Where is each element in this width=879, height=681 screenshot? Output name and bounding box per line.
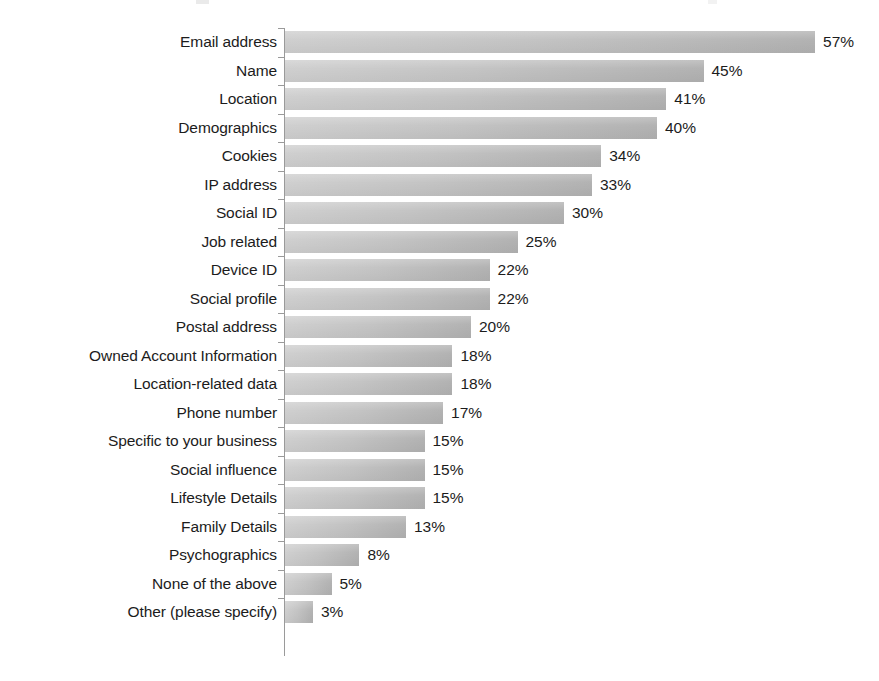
bar-group: 8%	[285, 544, 390, 566]
bar-value-label: 13%	[414, 516, 445, 538]
bar-group: 3%	[285, 601, 343, 623]
category-label: None of the above	[0, 570, 277, 599]
axis-tick	[278, 399, 284, 400]
category-label: Other (please specify)	[0, 598, 277, 627]
bar	[285, 202, 564, 224]
category-label: Cookies	[0, 142, 277, 171]
bar-value-label: 15%	[433, 430, 464, 452]
axis-tick	[278, 370, 284, 371]
axis-tick	[278, 28, 284, 29]
bar-group: 17%	[285, 402, 482, 424]
category-label: Lifestyle Details	[0, 484, 277, 513]
plot-area: Email address57%Name45%Location41%Demogr…	[0, 28, 879, 658]
bar-value-label: 22%	[498, 288, 529, 310]
bar-value-label: 57%	[823, 31, 854, 53]
axis-tick	[278, 313, 284, 314]
bar	[285, 259, 490, 281]
axis-tick	[278, 199, 284, 200]
bar-value-label: 15%	[433, 487, 464, 509]
axis-tick	[278, 484, 284, 485]
bar-value-label: 18%	[460, 373, 491, 395]
axis-tick	[278, 256, 284, 257]
bar-value-label: 3%	[321, 601, 343, 623]
category-label: Owned Account Information	[0, 342, 277, 371]
bar	[285, 174, 592, 196]
bar	[285, 316, 471, 338]
axis-tick	[278, 570, 284, 571]
bar	[285, 402, 443, 424]
bar	[285, 288, 490, 310]
bar	[285, 88, 666, 110]
bar-value-label: 33%	[600, 174, 631, 196]
bar-chart: Email address57%Name45%Location41%Demogr…	[0, 0, 879, 681]
axis-tick	[278, 57, 284, 58]
bar-row: Cookies34%	[0, 142, 879, 171]
category-label: Demographics	[0, 114, 277, 143]
bar-group: 41%	[285, 88, 705, 110]
bar-row: None of the above5%	[0, 570, 879, 599]
bar	[285, 145, 601, 167]
axis-tick	[278, 228, 284, 229]
bar-group: 5%	[285, 573, 362, 595]
bar-group: 15%	[285, 430, 464, 452]
bar-value-label: 20%	[479, 316, 510, 338]
bar	[285, 459, 425, 481]
bar-value-label: 34%	[609, 145, 640, 167]
bar-row: Demographics40%	[0, 114, 879, 143]
bar	[285, 601, 313, 623]
bar-group: 20%	[285, 316, 510, 338]
bar-group: 15%	[285, 459, 464, 481]
bar-row: Family Details13%	[0, 513, 879, 542]
bar-row: Location41%	[0, 85, 879, 114]
bar-row: Postal address20%	[0, 313, 879, 342]
bar-value-label: 22%	[498, 259, 529, 281]
axis-tick	[278, 285, 284, 286]
bar-group: 18%	[285, 373, 491, 395]
bar-row: Location-related data18%	[0, 370, 879, 399]
category-label: Location-related data	[0, 370, 277, 399]
bar-group: 57%	[285, 31, 854, 53]
axis-tick	[278, 171, 284, 172]
bar	[285, 573, 332, 595]
bar-row: Specific to your business15%	[0, 427, 879, 456]
category-label: Social influence	[0, 456, 277, 485]
bar	[285, 31, 815, 53]
bar-value-label: 5%	[340, 573, 362, 595]
bar-row: Psychographics8%	[0, 541, 879, 570]
bar	[285, 430, 425, 452]
bar-row: Social influence15%	[0, 456, 879, 485]
axis-tick	[278, 85, 284, 86]
bar-row: Owned Account Information18%	[0, 342, 879, 371]
bar-group: 25%	[285, 231, 557, 253]
bar-row: Email address57%	[0, 28, 879, 57]
axis-tick	[278, 342, 284, 343]
category-label: Phone number	[0, 399, 277, 428]
bar-row: Social ID30%	[0, 199, 879, 228]
bar-group: 13%	[285, 516, 445, 538]
scan-artifact	[708, 0, 717, 4]
bar	[285, 60, 704, 82]
scan-artifact	[196, 0, 209, 4]
bar-row: IP address33%	[0, 171, 879, 200]
bar	[285, 544, 359, 566]
category-label: Social profile	[0, 285, 277, 314]
bar	[285, 516, 406, 538]
bar-value-label: 8%	[367, 544, 389, 566]
bar-value-label: 17%	[451, 402, 482, 424]
bar-value-label: 25%	[526, 231, 557, 253]
bar	[285, 117, 657, 139]
bar	[285, 487, 425, 509]
category-label: Social ID	[0, 199, 277, 228]
bar-group: 22%	[285, 288, 529, 310]
bar-group: 34%	[285, 145, 640, 167]
bar-group: 30%	[285, 202, 603, 224]
category-label: Psychographics	[0, 541, 277, 570]
category-label: Location	[0, 85, 277, 114]
bar-row: Lifestyle Details15%	[0, 484, 879, 513]
category-label: Postal address	[0, 313, 277, 342]
bar-value-label: 41%	[674, 88, 705, 110]
bar-row: Name45%	[0, 57, 879, 86]
bar-value-label: 30%	[572, 202, 603, 224]
bar-row: Device ID22%	[0, 256, 879, 285]
category-label: Email address	[0, 28, 277, 57]
